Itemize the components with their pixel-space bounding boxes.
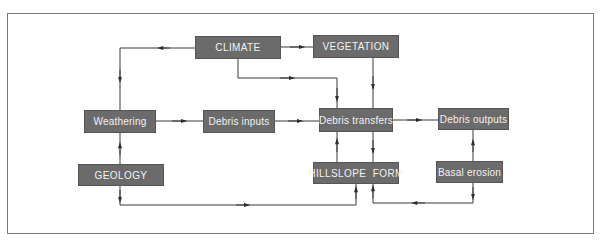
node-climate-label: CLIMATE xyxy=(215,42,260,53)
edge-geology-hillslope xyxy=(120,184,356,205)
node-weathering: Weathering xyxy=(84,110,156,133)
node-vegetation-label: VEGETATION xyxy=(323,41,390,52)
node-debris-inputs: Debris inputs xyxy=(203,110,275,133)
node-climate: CLIMATE xyxy=(195,36,281,59)
node-weathering-label: Weathering xyxy=(94,116,147,127)
edge-climate-transfers xyxy=(238,59,337,108)
node-basal-erosion-label: Basal erosion xyxy=(438,167,501,178)
node-vegetation: VEGETATION xyxy=(313,35,399,58)
node-debris-inputs-label: Debris inputs xyxy=(209,116,270,127)
node-hillslope-form: HILLSLOPE FORM xyxy=(313,162,399,184)
node-geology-label: GEOLOGY xyxy=(95,170,148,181)
edge-basal-hillslope xyxy=(373,183,473,203)
node-debris-transfers: Debris transfers xyxy=(319,108,393,132)
node-debris-transfers-label: Debris transfers xyxy=(319,115,393,126)
node-basal-erosion: Basal erosion xyxy=(436,161,503,183)
node-debris-outputs-label: Debris outputs xyxy=(440,114,507,125)
node-hillslope-form-label: HILLSLOPE FORM xyxy=(308,168,403,179)
edge-climate-weathering xyxy=(120,48,195,110)
node-debris-outputs: Debris outputs xyxy=(438,108,509,130)
node-geology: GEOLOGY xyxy=(78,164,164,186)
